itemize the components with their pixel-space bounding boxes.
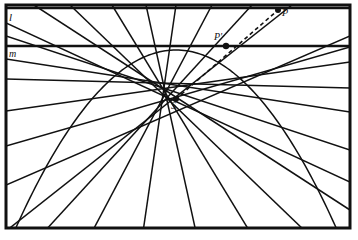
tangent-line: [92, 5, 212, 232]
point-P-prime: [223, 43, 229, 49]
figure-canvas: l m P P' S: [0, 0, 358, 240]
label-point-s: S: [171, 101, 176, 111]
point-P: [275, 7, 281, 13]
tangent-line: [6, 36, 350, 150]
geometry-diagram: [0, 0, 358, 240]
diagram-content: [6, 5, 350, 232]
label-point-p: P: [282, 8, 288, 18]
figure-frame: [6, 5, 350, 228]
label-point-p-prime: P': [214, 32, 222, 42]
tangent-line: [6, 36, 350, 185]
tangent-line: [112, 5, 250, 232]
label-line-l: l: [9, 12, 12, 23]
label-line-m: m: [9, 49, 16, 59]
tangent-line: [34, 5, 350, 210]
